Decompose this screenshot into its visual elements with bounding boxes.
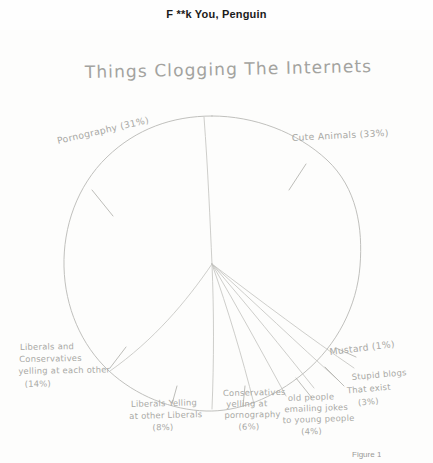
- old-people-line-1: old people: [288, 391, 335, 403]
- old-people-line-3: to young people: [282, 413, 354, 426]
- lib-cons-line-3: yelling at each other: [18, 364, 110, 376]
- lib-cons-line-1: Liberals and: [20, 341, 74, 352]
- conservatives-porn-line-4: (6%): [238, 421, 259, 431]
- pie-label-cute-animals: Cute Animals (33%): [292, 127, 389, 143]
- lib-cons-line-2: Conservatives: [19, 353, 82, 364]
- pie-label-liberals-conservatives: Liberals and Conservatives yelling at ea…: [18, 340, 111, 389]
- lib-cons-line-4: (14%): [25, 378, 52, 388]
- pie-label-old-people: old people emailing jokes to young peopl…: [282, 391, 355, 437]
- pie-label-stupid-blogs: Stupid blogs That exist (3%): [344, 367, 409, 408]
- conservatives-porn-line-1: Conservatives: [223, 387, 286, 398]
- pie-label-pornography: Pornography (31%): [56, 114, 150, 146]
- pie-label-conservatives-porn: Conservatives yelling at pornography (6%…: [223, 387, 286, 432]
- conservatives-porn-line-2: yelling at: [226, 398, 268, 409]
- stupid-blogs-line-3: (3%): [358, 396, 380, 408]
- pie-slice-lines: [110, 117, 354, 409]
- leader-stupid-blogs: [325, 367, 344, 386]
- stupid-blogs-line-2: That exist: [345, 382, 391, 396]
- liberals-yelling-line-2: at other Liberals: [129, 409, 202, 421]
- old-people-line-4: (4%): [301, 426, 322, 437]
- figure-caption: Figure 1: [352, 450, 381, 461]
- liberals-yelling-line-1: Liberals Yelling: [131, 397, 197, 409]
- leader-cute-animals: [289, 164, 306, 190]
- pie-label-liberals-yelling: Liberals Yelling at other Liberals (8%): [129, 397, 203, 433]
- pie-chart: Things Clogging The Internets: [0, 30, 433, 463]
- chart-title: Things Clogging The Internets: [84, 56, 373, 82]
- page-title: F **k You, Penguin: [0, 8, 433, 20]
- pie-label-mustard: Mustard (1%): [329, 338, 395, 357]
- conservatives-porn-line-3: pornography: [224, 409, 281, 420]
- leader-pornography: [92, 190, 113, 216]
- stupid-blogs-line-1: Stupid blogs: [351, 367, 407, 382]
- chart-sheet: Things Clogging The Internets: [0, 30, 433, 463]
- liberals-yelling-line-3: (8%): [152, 422, 173, 433]
